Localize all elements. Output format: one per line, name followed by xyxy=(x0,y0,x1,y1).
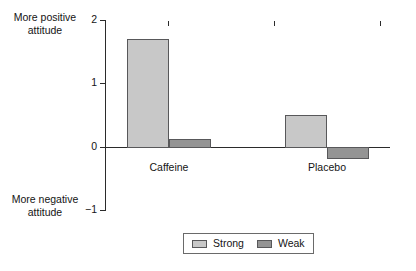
x-tick-right xyxy=(380,21,381,26)
bar-placebo-weak xyxy=(327,147,369,159)
bar-placebo-strong xyxy=(285,115,327,148)
legend: Strong Weak xyxy=(183,233,314,254)
axis-note-more-positive-line2: attitude xyxy=(2,24,88,37)
legend-entry-strong: Strong xyxy=(192,237,244,250)
axis-note-more-negative-line1: More negative xyxy=(2,193,88,206)
y-tick-2: 2 xyxy=(100,20,105,21)
y-tick-label-1: 1 xyxy=(91,76,97,89)
legend-swatch-strong-icon xyxy=(192,240,207,248)
y-tick-neg1: −1 xyxy=(100,210,105,211)
y-axis-line xyxy=(105,20,106,211)
axis-note-more-negative-line2: attitude xyxy=(2,206,88,219)
legend-label-strong: Strong xyxy=(213,237,244,250)
legend-label-weak: Weak xyxy=(278,237,305,250)
bar-chart-figure: More positive attitude More negative att… xyxy=(0,0,416,271)
y-tick-0: 0 xyxy=(100,147,105,148)
y-tick-label-0: 0 xyxy=(91,140,97,153)
bar-caffeine-weak xyxy=(169,139,211,148)
axis-note-more-positive-line1: More positive xyxy=(2,11,88,24)
x-category-label-caffeine: Caffeine xyxy=(150,161,189,174)
bar-caffeine-strong xyxy=(127,39,169,148)
x-tick-middle xyxy=(274,21,275,26)
plot-area: 2 1 0 −1 Caffeine Placebo xyxy=(105,20,390,211)
axis-note-more-positive: More positive attitude xyxy=(2,11,88,37)
x-category-label-placebo: Placebo xyxy=(308,161,346,174)
y-tick-1: 1 xyxy=(100,83,105,84)
axis-note-more-negative: More negative attitude xyxy=(2,193,88,219)
legend-swatch-weak-icon xyxy=(257,240,272,248)
y-tick-label-2: 2 xyxy=(91,13,97,26)
x-tick-left xyxy=(168,21,169,26)
legend-entry-weak: Weak xyxy=(257,237,305,250)
y-tick-label-neg1: −1 xyxy=(85,203,97,216)
